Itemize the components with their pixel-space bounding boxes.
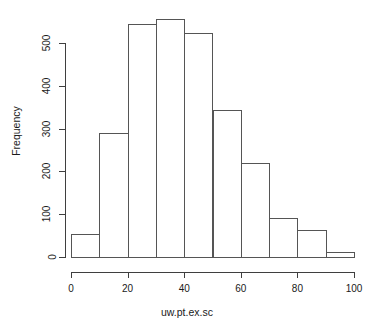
x-tick-mark [184, 272, 185, 278]
x-tick-mark [128, 272, 129, 278]
x-tick-label: 80 [277, 283, 317, 294]
x-tick-mark [241, 272, 242, 278]
histogram-bar [128, 24, 157, 258]
histogram-bar [326, 252, 355, 258]
x-tick-mark [71, 272, 72, 278]
x-tick-mark [297, 272, 298, 278]
x-tick-label: 40 [164, 283, 204, 294]
histogram-bar [156, 19, 185, 258]
x-tick-label: 100 [334, 283, 374, 294]
histogram-bar [269, 218, 298, 258]
histogram-plot: 0100200300400500 Frequency 020406080100 … [0, 0, 374, 333]
histogram-bar [241, 163, 270, 258]
x-tick-label: 0 [51, 283, 91, 294]
x-tick-label: 60 [221, 283, 261, 294]
x-axis-title: uw.pt.ex.sc [0, 306, 374, 318]
x-tick-mark [354, 272, 355, 278]
x-tick-label: 20 [108, 283, 148, 294]
histogram-bar [99, 133, 128, 258]
histogram-bar [184, 33, 213, 258]
histogram-bar [297, 230, 326, 258]
histogram-bar [213, 110, 242, 258]
histogram-bar [71, 234, 100, 258]
x-axis-line [71, 272, 354, 273]
